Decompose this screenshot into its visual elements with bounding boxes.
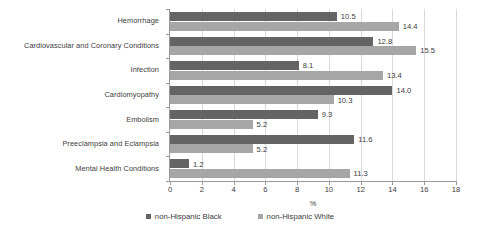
y-axis-tick [166,156,170,157]
x-axis-title: % [170,199,456,208]
x-axis-tick-label: 2 [200,185,204,194]
gridline [424,9,425,181]
bar [170,144,253,153]
x-axis-tick-label: 18 [452,185,460,194]
y-axis-tick [166,107,170,108]
legend-label: non-Hispanic Black [155,212,222,221]
bar-value-label: 8.1 [303,61,314,70]
bar [170,61,299,70]
bar-value-label: 5.2 [257,120,268,129]
bar [170,120,253,129]
legend-label: non-Hispanic White [267,212,335,221]
x-axis-tick-label: 4 [231,185,235,194]
bar-value-label: 10.3 [338,96,353,105]
gridline [392,9,393,181]
category-label: Cardiomyopathy [104,90,159,99]
x-axis-tick-label: 0 [168,185,172,194]
x-axis-line [169,181,457,182]
legend-swatch-icon [258,214,263,219]
x-axis-tick-label: 10 [325,185,333,194]
bar [170,71,383,80]
x-axis-tick-label: 12 [356,185,364,194]
bar-value-label: 14.0 [396,86,411,95]
y-axis-tick [166,9,170,10]
category-label: Cardiovascular and Coronary Conditions [24,41,159,50]
legend-item[interactable]: non-Hispanic Black [146,212,222,221]
gridline [361,9,362,181]
bar [170,135,354,144]
plot-area: 10.514.412.815.58.113.414.010.39.35.211.… [170,9,456,181]
bar [170,86,392,95]
bar [170,12,337,21]
bar-chart: HemorrhageCardiovascular and Coronary Co… [0,0,480,236]
category-axis-labels: HemorrhageCardiovascular and Coronary Co… [0,9,164,181]
y-axis-tick [166,34,170,35]
bar-value-label: 14.4 [403,22,418,31]
gridline [456,9,457,181]
legend-item[interactable]: non-Hispanic White [258,212,335,221]
bar-value-label: 13.4 [387,71,402,80]
bar [170,46,416,55]
y-axis-tick [166,181,170,182]
bar-value-label: 5.2 [257,145,268,154]
y-axis-tick [166,58,170,59]
bar-value-label: 9.3 [322,110,333,119]
x-axis-tick-label: 14 [388,185,396,194]
bar [170,110,318,119]
bar [170,169,350,178]
category-label: Infection [131,65,159,74]
y-axis-tick [166,83,170,84]
y-axis-tick [166,132,170,133]
bar-value-label: 15.5 [420,46,435,55]
bar-value-label: 10.5 [341,12,356,21]
x-axis-tick-label: 8 [295,185,299,194]
bar [170,37,373,46]
category-label: Hemorrhage [117,16,159,25]
category-label: Preeclampsia and Eclampsia [62,139,159,148]
category-label: Embolism [126,115,159,124]
chart-legend: non-Hispanic Blacknon-Hispanic White [0,212,480,221]
legend-swatch-icon [146,214,151,219]
category-label: Mental Health Conditions [75,164,159,173]
bar-value-label: 11.3 [354,169,368,178]
x-axis-tick-label: 16 [420,185,428,194]
bar [170,95,334,104]
x-axis-tick-label: 6 [263,185,267,194]
bar-value-label: 11.6 [358,135,372,144]
bar [170,159,189,168]
bar-value-label: 12.8 [377,37,392,46]
bar [170,22,399,31]
bar-value-label: 1.2 [193,160,204,169]
